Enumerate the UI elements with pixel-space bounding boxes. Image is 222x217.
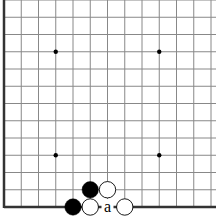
star-point-icon <box>54 50 58 54</box>
white-stone-icon <box>82 199 98 215</box>
white-stone-icon <box>99 182 115 198</box>
star-point-icon <box>54 153 58 157</box>
point-label: a <box>104 198 111 215</box>
black-stone-icon <box>65 199 81 215</box>
star-point-icon <box>157 50 161 54</box>
star-point-icon <box>157 153 161 157</box>
go-board: a <box>0 0 222 217</box>
black-stone-icon <box>82 182 98 198</box>
white-stone-icon <box>117 199 133 215</box>
